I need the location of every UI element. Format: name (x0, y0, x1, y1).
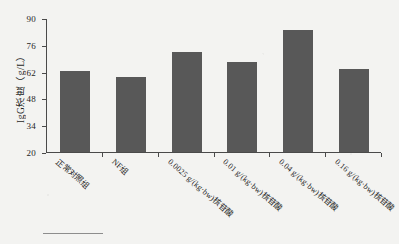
footer-rule (43, 233, 103, 234)
y-tick-label: 34 (27, 121, 36, 131)
y-tick: 48 (42, 99, 46, 100)
x-category-label: 0.16 g/(kg·bw)核苷酸 (333, 155, 397, 213)
y-tick-label: 90 (27, 14, 36, 24)
bar (339, 69, 369, 152)
y-tick: 34 (42, 126, 46, 127)
bar (283, 30, 313, 153)
x-tick (381, 153, 382, 157)
plot-area: 203448627690 (46, 19, 381, 153)
y-tick-label: 76 (27, 41, 36, 51)
bar (172, 52, 202, 152)
y-tick: 76 (42, 46, 46, 47)
y-axis-title: IgG浓度（g/L） (14, 19, 28, 153)
bar (60, 71, 90, 152)
y-axis-title-text: IgG浓度（g/L） (14, 50, 28, 123)
x-axis-category-labels: 正常对照组NF组0.0025 g/(kg·bw)核苷酸0.01 g/(kg·bw… (46, 155, 381, 241)
bar (227, 62, 257, 152)
y-tick: 62 (42, 73, 46, 74)
y-tick-label: 62 (27, 68, 36, 78)
x-category-label: 正常对照组 (54, 155, 92, 191)
y-tick: 20 (42, 153, 46, 154)
figure-canvas: IgG浓度（g/L） 203448627690 正常对照组NF组0.0025 g… (0, 0, 399, 244)
bar-series (47, 19, 381, 152)
y-tick: 90 (42, 19, 46, 20)
y-tick-label: 20 (27, 148, 36, 158)
bar (116, 77, 146, 152)
x-category-label: NF组 (110, 155, 132, 176)
y-tick-label: 48 (27, 94, 36, 104)
